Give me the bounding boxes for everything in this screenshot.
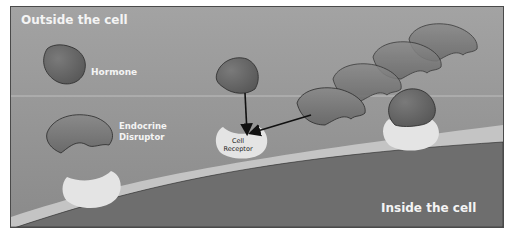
receptor-line-1: Cell: [215, 137, 261, 145]
endocrine-disruptor-label: Endocrine Disruptor: [119, 121, 167, 143]
diagram-canvas: [11, 7, 503, 227]
diagram-frame: Outside the cell Hormone Endocrine Disru…: [10, 6, 504, 228]
receptor-line-2: Receptor: [215, 145, 261, 153]
cell-receptor-label: Cell Receptor: [215, 137, 261, 153]
outside-label: Outside the cell: [21, 13, 128, 27]
disruptor-line: Disruptor: [119, 132, 167, 143]
hormone-label: Hormone: [91, 67, 137, 77]
endocrine-line: Endocrine: [119, 121, 167, 132]
inside-label: Inside the cell: [381, 201, 476, 215]
